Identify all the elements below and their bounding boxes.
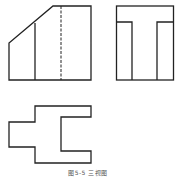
side-view: [117, 6, 174, 80]
three-view-drawing: [0, 0, 176, 180]
top-view: [9, 106, 91, 163]
figure-caption: 图5-5 三视图: [0, 168, 176, 177]
front-view: [9, 6, 91, 80]
